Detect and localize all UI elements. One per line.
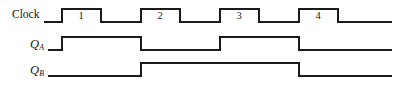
- timing-diagram: Clock QA QB 1234: [0, 0, 400, 93]
- waveform-clock: [44, 9, 392, 22]
- clock-pulse-number: 3: [236, 11, 241, 22]
- waveform-qb: [48, 63, 392, 76]
- clock-pulse-number: 4: [315, 11, 320, 22]
- waveform-qa: [48, 37, 392, 50]
- waveform-canvas: [0, 0, 400, 93]
- clock-pulse-number: 2: [157, 11, 162, 22]
- clock-pulse-number: 1: [78, 11, 83, 22]
